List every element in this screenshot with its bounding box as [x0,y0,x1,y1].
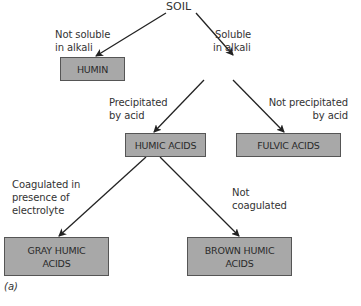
arrow-humic-to-brown [160,157,239,236]
edge-label-line: Precipitated [109,96,168,109]
edge-label-precipitated: Precipitated by acid [109,96,168,122]
root-node-soil: SOIL [166,0,191,13]
edge-label-coagulated: Coagulated in presence of electrolyte [12,178,80,217]
node-humin: HUMIN [60,57,125,81]
edge-label-line: coagulated [232,199,287,212]
edge-label-soluble: Soluble in alkali [213,28,251,54]
edge-label-line: Not precipitated [262,96,348,109]
node-label: ACIDS [42,257,70,270]
node-humic-acids: HUMIC ACIDS [125,133,206,157]
edge-label-not-precipitated: Not precipitated by acid [262,96,348,122]
node-label: HUMIN [77,63,108,76]
edge-label-line: in alkali [55,41,110,54]
node-fulvic-acids: FULVIC ACIDS [236,133,341,157]
node-label: GRAY HUMIC [28,244,86,257]
node-label: FULVIC ACIDS [257,139,319,152]
node-label: ACIDS [225,257,253,270]
edge-label-line: by acid [109,109,168,122]
node-label: HUMIC ACIDS [135,139,197,152]
edge-label-line: Not [232,186,287,199]
figure-caption: (a) [4,281,18,292]
node-label: BROWN HUMIC [205,244,275,257]
edge-label-line: Coagulated in [12,178,80,191]
edge-label-line: electrolyte [12,204,80,217]
edge-label-line: presence of [12,191,80,204]
edge-label-not-coagulated: Not coagulated [232,186,287,212]
edge-label-line: Not soluble [55,28,110,41]
node-brown-humic-acids: BROWN HUMIC ACIDS [187,237,292,276]
edge-label-line: Soluble [213,28,251,41]
edge-label-line: by acid [262,109,348,122]
node-gray-humic-acids: GRAY HUMIC ACIDS [4,237,109,276]
edge-label-not-soluble: Not soluble in alkali [55,28,110,54]
edge-label-line: in alkali [213,41,251,54]
